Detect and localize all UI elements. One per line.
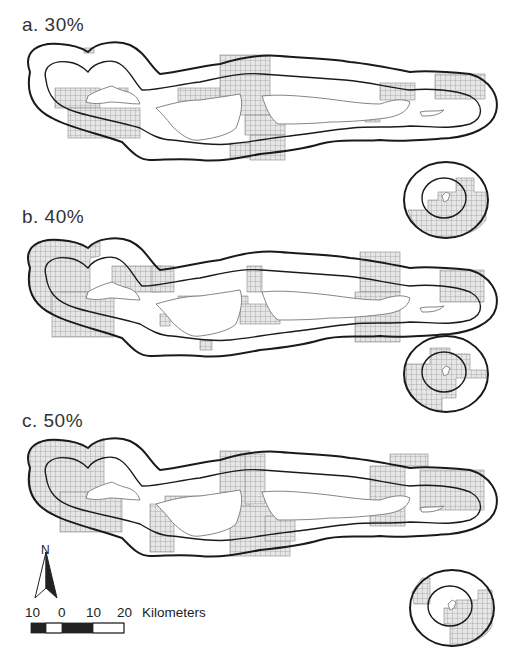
north-label: N	[41, 543, 50, 557]
scale-tick-10: 10	[86, 605, 101, 620]
panel-b-isolated-island	[404, 336, 488, 412]
scale-units: Kilometers	[142, 605, 206, 620]
panel-a-isolated-island	[404, 162, 488, 238]
scale-tick-20: 20	[117, 605, 132, 620]
panel-a-map	[28, 42, 497, 238]
scale-tick-0: 0	[58, 605, 66, 620]
scale-bar	[31, 623, 124, 633]
map-figure	[0, 0, 512, 658]
scale-tick-10-left: 10	[25, 605, 40, 620]
north-arrow-icon	[35, 552, 57, 598]
panel-b-map	[28, 238, 497, 412]
panel-c-isolated-island	[410, 570, 494, 646]
